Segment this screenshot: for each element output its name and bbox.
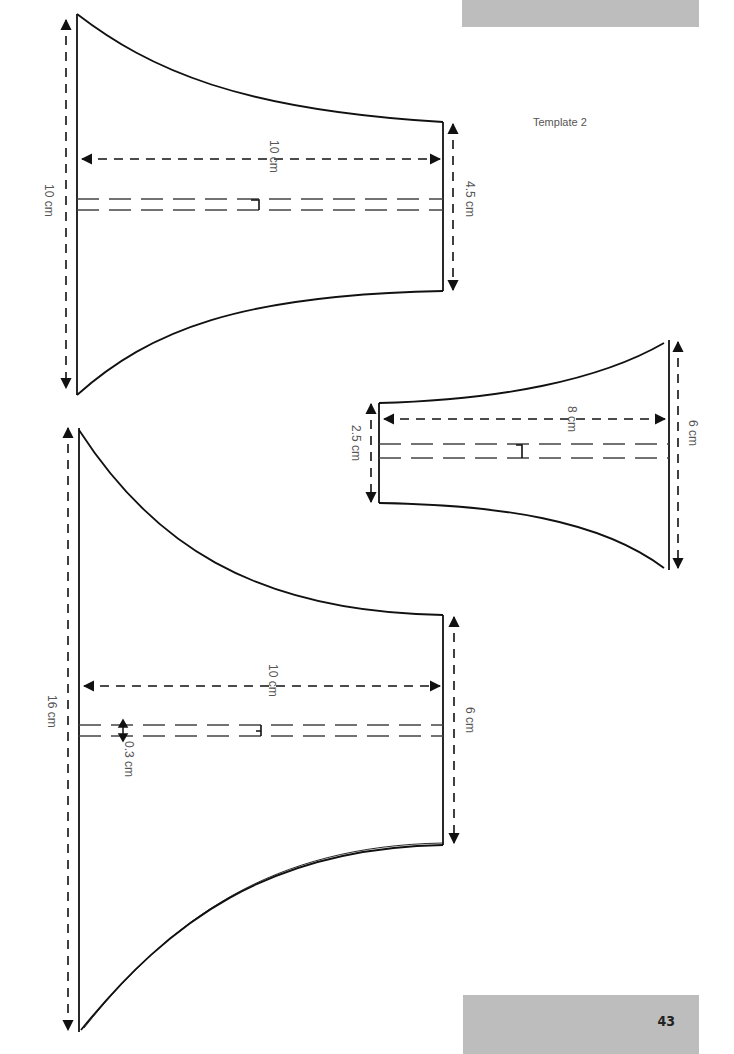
dim-label-bottom-height: 16 cm (45, 695, 59, 728)
template-shape-top (77, 14, 443, 395)
dim-label-top-width: 10 cm (267, 140, 281, 173)
pattern-drawing (0, 0, 734, 1054)
template-shape-small (379, 340, 669, 570)
dim-label-top-neck: 4.5 cm (463, 181, 477, 217)
dim-label-seam: 0.3 cm (122, 741, 136, 777)
dim-label-bottom-width: 10 cm (266, 664, 280, 697)
dim-label-small-neck: 2.5 cm (349, 425, 363, 461)
dim-label-bottom-neck: 6 cm (463, 707, 477, 733)
dim-label-small-width: 8 cm (565, 406, 579, 432)
dim-label-top-height: 10 cm (42, 184, 56, 217)
dim-label-small-height: 6 cm (686, 420, 700, 446)
